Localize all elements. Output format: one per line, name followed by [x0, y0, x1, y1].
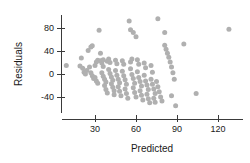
data-point [154, 79, 159, 84]
data-point [155, 16, 160, 21]
data-point [112, 92, 117, 97]
data-point [129, 57, 134, 62]
data-point [139, 93, 144, 98]
data-point [143, 65, 148, 70]
data-point [159, 99, 164, 104]
y-tick-label: 40 [44, 46, 54, 56]
data-point [117, 89, 122, 94]
data-point [64, 63, 69, 68]
data-point [168, 59, 173, 64]
data-point [153, 100, 158, 105]
data-point [173, 103, 178, 108]
data-point [144, 82, 149, 87]
x-tick-label: 90 [172, 124, 182, 134]
data-point [124, 82, 129, 87]
data-point [123, 77, 128, 82]
data-point [116, 84, 121, 89]
data-point [155, 84, 160, 89]
data-point [95, 81, 100, 86]
data-point [114, 61, 119, 66]
data-point [139, 84, 144, 89]
plot-area: 306090120 -4004080 Predicted Residuals [0, 0, 250, 163]
data-point [120, 69, 125, 74]
data-point [194, 91, 199, 96]
data-point [136, 62, 141, 67]
data-point [181, 42, 186, 47]
data-point [157, 89, 162, 94]
data-point [149, 63, 154, 68]
data-points-group [64, 16, 232, 108]
data-point [169, 93, 174, 98]
y-tick-label: 0 [49, 69, 54, 79]
data-point [125, 96, 130, 101]
data-point [79, 55, 84, 60]
data-point [162, 30, 167, 35]
data-point [118, 93, 123, 98]
data-point [138, 88, 143, 93]
data-point [121, 62, 126, 67]
data-point [142, 61, 147, 66]
data-point [169, 65, 174, 70]
data-point [98, 51, 103, 56]
data-point [123, 86, 128, 91]
data-point [140, 97, 145, 102]
data-point [108, 60, 113, 65]
x-axis-ticks: 306090120 [90, 115, 226, 134]
data-point [134, 95, 139, 100]
scatter-chart: 306090120 -4004080 Predicted Residuals [0, 0, 250, 163]
data-point [127, 19, 132, 24]
data-point [226, 27, 231, 32]
y-axis-title: Residuals [13, 42, 24, 86]
data-point [150, 70, 155, 75]
data-point [131, 85, 136, 90]
data-point [113, 68, 118, 73]
data-point [150, 82, 155, 87]
data-point [131, 76, 136, 81]
data-point [90, 43, 95, 48]
data-point [149, 77, 154, 82]
data-point [124, 91, 129, 96]
data-point [144, 92, 149, 97]
data-point [132, 81, 137, 86]
data-point [132, 90, 137, 95]
data-point [101, 64, 106, 69]
data-point [135, 69, 140, 74]
data-point [166, 55, 171, 60]
x-tick-label: 60 [131, 124, 141, 134]
x-tick-label: 30 [90, 124, 100, 134]
data-point [146, 87, 151, 92]
x-tick-label: 120 [210, 124, 225, 134]
data-point [135, 57, 140, 62]
y-tick-label: 80 [44, 23, 54, 33]
data-point [128, 66, 133, 71]
data-point [147, 100, 152, 105]
y-tick-label: -40 [41, 92, 54, 102]
x-axis-title: Predicted [131, 143, 173, 154]
data-point [170, 70, 175, 75]
data-point [134, 34, 139, 39]
data-point [105, 90, 110, 95]
data-point [138, 79, 143, 84]
data-point [97, 28, 102, 33]
data-point [87, 65, 92, 70]
data-point [142, 73, 147, 78]
data-point [172, 77, 177, 82]
